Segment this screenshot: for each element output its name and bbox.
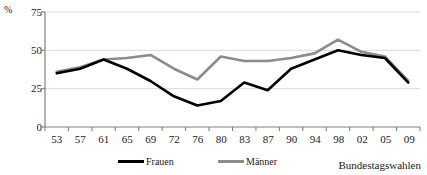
- legend-label-frauen: Frauen: [146, 156, 174, 167]
- x-tick-label-09: 09: [397, 134, 421, 145]
- gridlines: [45, 12, 420, 89]
- x-tick-label-72: 72: [162, 134, 186, 145]
- legend-label-maenner: Männer: [246, 156, 277, 167]
- legend-swatch-frauen: [118, 160, 144, 163]
- x-tick-label-76: 76: [186, 134, 210, 145]
- x-tick-label-65: 65: [115, 134, 139, 145]
- x-tick-label-94: 94: [303, 134, 327, 145]
- x-tick-label-02: 02: [350, 134, 374, 145]
- legend-item-maenner: Männer: [218, 156, 277, 167]
- legend-item-frauen: Frauen: [118, 156, 174, 167]
- x-tick-label-98: 98: [327, 134, 351, 145]
- x-tick-label-90: 90: [280, 134, 304, 145]
- x-tick-label-57: 57: [68, 134, 92, 145]
- plot-area: [0, 0, 427, 175]
- x-tick-label-80: 80: [209, 134, 233, 145]
- chart-container: % 75 50 25 0 53 57 61 65 69 72 76 80: [0, 0, 427, 175]
- x-tick-label-83: 83: [233, 134, 257, 145]
- series-line-maenner: [57, 40, 409, 81]
- legend-swatch-maenner: [218, 160, 244, 163]
- x-tick-label-61: 61: [92, 134, 116, 145]
- x-tick-label-53: 53: [45, 134, 69, 145]
- x-tick-label-69: 69: [139, 134, 163, 145]
- x-axis-title: Bundestagswahlen: [339, 160, 421, 171]
- x-tick-label-87: 87: [256, 134, 280, 145]
- x-tick-label-05: 05: [374, 134, 398, 145]
